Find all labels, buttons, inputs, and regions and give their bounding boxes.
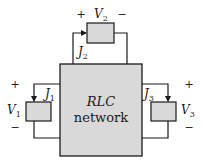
port1-voltage-label: V1 (7, 103, 21, 119)
port2-minus: − (117, 8, 126, 21)
port-3: + − V3 J3 (141, 78, 195, 138)
port3-box (151, 102, 176, 121)
port1-minus: − (10, 121, 19, 134)
port1-box (26, 102, 51, 121)
port3-wire-bottom (142, 121, 168, 138)
port1-current-label: J1 (42, 87, 55, 103)
port2-wire-right (114, 33, 127, 64)
port3-plus: + (184, 78, 193, 91)
port2-voltage-label: V2 (94, 7, 108, 23)
port3-voltage-label: V3 (181, 103, 195, 119)
port3-current-label: J3 (141, 87, 154, 103)
port2-current-label: J2 (75, 45, 88, 61)
port2-box (87, 23, 114, 43)
port2-plus: + (76, 8, 85, 21)
network-label-network: network (74, 110, 128, 125)
port-2: + − V2 J2 (73, 7, 127, 64)
port3-minus: − (184, 121, 193, 134)
circuit-svg: RLC network + − V2 J2 + − V1 J1 + (0, 0, 203, 165)
port-1: + − V1 J1 (7, 78, 60, 138)
network-label-rlc: RLC (86, 94, 115, 109)
rlc-network-diagram: RLC network + − V2 J2 + − V1 J1 + (0, 0, 203, 165)
port1-plus: + (10, 78, 19, 91)
port1-wire-bottom (34, 121, 60, 138)
